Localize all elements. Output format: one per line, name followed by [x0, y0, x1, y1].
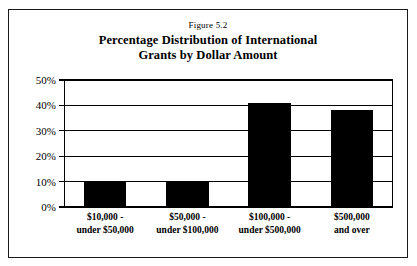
x-axis-label: $500,000and over — [311, 211, 393, 237]
x-axis-label-line: $100,000 - — [229, 211, 311, 224]
figure-frame: Figure 5.2 Percentage Distribution of In… — [8, 9, 408, 258]
x-axis-label: $10,000 -under $50,000 — [64, 211, 146, 237]
chart-title-line-1: Percentage Distribution of International — [9, 33, 407, 48]
y-axis-tick-label: 20% — [36, 151, 56, 162]
y-axis-tick — [59, 181, 64, 182]
y-axis-tick — [59, 156, 64, 157]
figure-number-label: Figure 5.2 — [9, 20, 407, 31]
x-axis-label-line: $500,000 — [311, 211, 393, 224]
chart-title: Percentage Distribution of International… — [9, 33, 407, 63]
y-axis-tick — [59, 79, 64, 80]
bar — [331, 110, 373, 207]
y-axis-tick — [59, 130, 64, 131]
y-axis-tick-label: 0% — [41, 202, 56, 213]
y-axis-tick-label: 30% — [36, 125, 56, 136]
y-axis-tick-label: 50% — [36, 75, 56, 86]
x-axis-label-line: under $500,000 — [229, 224, 311, 237]
chart-title-line-2: Grants by Dollar Amount — [9, 48, 407, 63]
x-axis-labels: $10,000 -under $50,000$50,000 -under $10… — [64, 211, 393, 257]
y-axis-tick — [59, 105, 64, 106]
x-axis-label-line: $50,000 - — [146, 211, 228, 224]
x-axis-label: $50,000 -under $100,000 — [146, 211, 228, 237]
y-axis-tick-label: 10% — [36, 176, 56, 187]
bar — [248, 103, 290, 207]
bar — [84, 182, 126, 207]
y-axis-tick — [59, 206, 64, 207]
x-axis-label-line: under $100,000 — [146, 224, 228, 237]
y-axis-tick-label: 40% — [36, 100, 56, 111]
x-axis-label-line: and over — [311, 224, 393, 237]
plot-area: 0%10%20%30%40%50% — [64, 80, 393, 207]
x-axis-label-line: $10,000 - — [64, 211, 146, 224]
bar — [166, 182, 208, 207]
x-axis-label: $100,000 -under $500,000 — [229, 211, 311, 237]
x-axis-label-line: under $50,000 — [64, 224, 146, 237]
bar-series — [64, 80, 393, 207]
